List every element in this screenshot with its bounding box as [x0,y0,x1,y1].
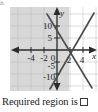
graph-figure: b. [0,0,98,112]
part-label: b. [0,0,5,7]
x-tick-label-2: 2 [67,55,72,65]
answer-box[interactable] [80,98,88,106]
y-tick-label--10: -10 [43,72,55,82]
caption: Required region is [2,95,98,110]
y-tick-label-5: 5 [48,33,53,43]
x-axis-label: x [91,51,96,61]
caption-text: Required region is [2,96,78,107]
coordinate-plane: -4 -2 0 2 4 10 5 -5 -10 x y [10,7,98,91]
y-axis-label: y [59,8,64,18]
y-tick-label-10: 10 [43,21,53,31]
x-tick-label-4: 4 [80,55,85,65]
y-tick-label--5: -5 [48,61,56,71]
x-tick-label--4: -4 [27,53,35,63]
